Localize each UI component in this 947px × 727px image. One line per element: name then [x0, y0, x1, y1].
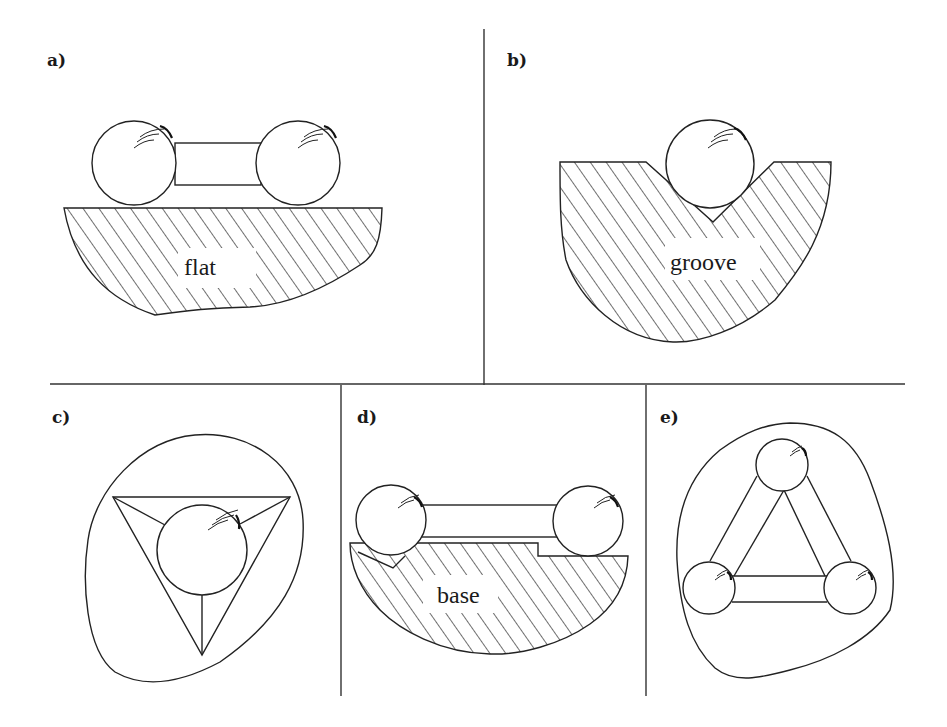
panel-a: a) flat: [47, 50, 382, 315]
panel-d: d) base: [350, 407, 628, 654]
panel-label-b: b): [507, 50, 527, 70]
kinematic-mount-diagram: a) flat b) groove c): [0, 0, 947, 727]
panel-label-a: a): [47, 50, 66, 70]
panel-label-c: c): [52, 407, 70, 427]
panel-label-d: d): [357, 407, 377, 427]
panel-label-e: e): [660, 407, 679, 427]
ball-left: [683, 562, 735, 614]
panel-c: c): [52, 407, 303, 682]
panel-e: e): [660, 407, 893, 678]
ball-left: [92, 121, 176, 205]
surface-label-groove: groove: [670, 249, 737, 275]
ball-right: [824, 562, 876, 614]
connecting-rod: [420, 505, 560, 537]
ball: [157, 505, 247, 595]
ball-right: [256, 121, 340, 205]
surface-label-flat: flat: [184, 254, 216, 280]
ball-right: [553, 486, 623, 556]
connecting-rod: [175, 143, 261, 185]
panel-b: b) groove: [507, 50, 831, 342]
surface-label-base: base: [437, 582, 480, 608]
